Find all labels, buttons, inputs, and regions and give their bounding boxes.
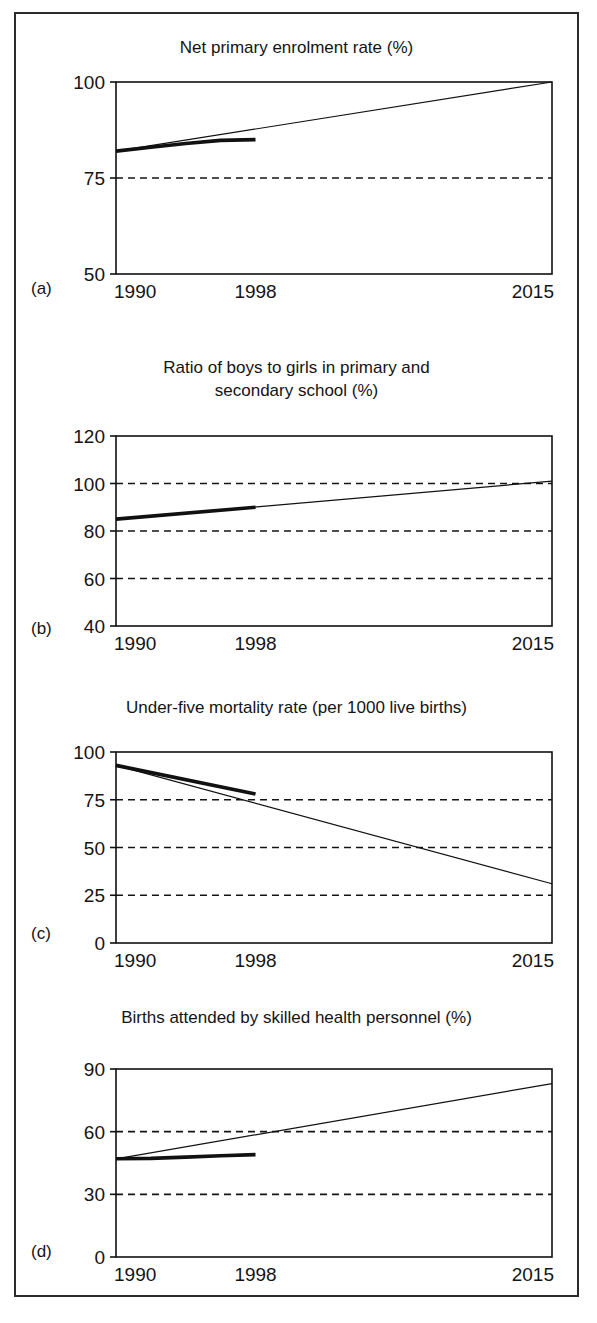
panel-c: Under-five mortality rate (per 1000 live…	[16, 674, 577, 984]
y-tick-label: 0	[94, 1247, 105, 1268]
y-tick-label: 30	[84, 1184, 105, 1205]
plot-frame	[116, 1069, 552, 1257]
x-tick-label: 2015	[512, 633, 554, 654]
y-tick-label: 90	[84, 1059, 105, 1080]
panel-a: Net primary enrolment rate (%) (a) 50751…	[16, 14, 577, 334]
y-tick-label: 100	[73, 72, 105, 93]
panel-a-plot: 5075100199019982015	[16, 14, 581, 334]
y-tick-label: 60	[84, 1122, 105, 1143]
y-tick-label: 80	[84, 521, 105, 542]
panel-c-plot: 0255075100199019982015	[16, 674, 581, 984]
x-tick-label: 1990	[114, 633, 156, 654]
x-tick-label: 1990	[114, 1264, 156, 1285]
panel-b: Ratio of boys to girls in primary and se…	[16, 334, 577, 674]
x-tick-label: 1990	[114, 950, 156, 971]
x-tick-label: 1998	[234, 1264, 276, 1285]
y-tick-label: 100	[73, 742, 105, 763]
y-tick-label: 50	[84, 838, 105, 859]
y-tick-label: 50	[84, 264, 105, 285]
series-target	[116, 481, 552, 519]
y-tick-label: 25	[84, 885, 105, 906]
panel-d-plot: 0306090199019982015	[16, 984, 581, 1299]
x-tick-label: 1990	[114, 281, 156, 302]
y-tick-label: 0	[94, 933, 105, 954]
y-tick-label: 60	[84, 569, 105, 590]
x-tick-label: 2015	[512, 281, 554, 302]
x-tick-label: 1998	[234, 633, 276, 654]
series-observed	[116, 140, 256, 152]
panel-b-plot: 406080100120199019982015	[16, 334, 581, 674]
panel-d: Births attended by skilled health person…	[16, 984, 577, 1299]
x-tick-label: 2015	[512, 1264, 554, 1285]
y-tick-label: 100	[73, 474, 105, 495]
figure-frame: Net primary enrolment rate (%) (a) 50751…	[14, 12, 579, 1297]
y-tick-label: 75	[84, 168, 105, 189]
y-tick-label: 75	[84, 790, 105, 811]
y-tick-label: 40	[84, 616, 105, 637]
series-target	[116, 1084, 552, 1159]
series-observed	[116, 765, 256, 794]
x-tick-label: 2015	[512, 950, 554, 971]
x-tick-label: 1998	[234, 950, 276, 971]
series-target	[116, 82, 552, 151]
x-tick-label: 1998	[234, 281, 276, 302]
y-tick-label: 120	[73, 426, 105, 447]
series-target	[116, 765, 552, 883]
